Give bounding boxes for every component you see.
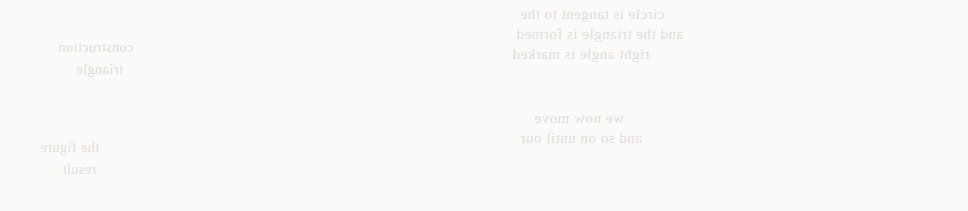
scanned-figure-page: circle is tangent to theand the triangle… — [0, 0, 968, 211]
figure-grid — [0, 0, 968, 211]
